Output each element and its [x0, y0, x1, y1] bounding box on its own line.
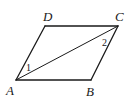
angle-label-1: 1: [26, 62, 31, 73]
vertex-label-c: C: [115, 9, 124, 24]
vertex-label-d: D: [42, 9, 53, 24]
diagonals: [16, 26, 118, 80]
angle-labels: 12: [26, 37, 107, 73]
vertex-label-b: B: [86, 84, 94, 98]
vertex-label-a: A: [5, 83, 14, 98]
vertex-labels: ABCD: [5, 9, 124, 98]
side-BC: [91, 26, 118, 80]
diagonal-AC: [16, 26, 118, 80]
parallelogram-diagram: ABCD 12: [0, 0, 133, 98]
angle-label-2: 2: [102, 37, 107, 48]
